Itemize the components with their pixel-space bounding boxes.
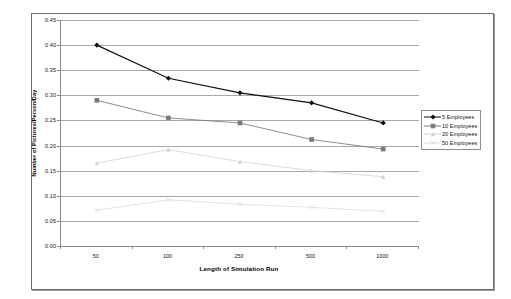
series-50-employees [95,198,386,214]
y-tick-mark [57,70,60,71]
x-tick-label: 250 [235,253,244,259]
x-tick-mark [346,246,347,249]
legend-item-1[interactable]: 5 Employees [424,113,477,122]
data-point [309,100,314,105]
series-10-employees [95,98,386,151]
y-tick-label: 0.45 [45,17,56,23]
legend-marker-icon [424,113,441,122]
y-tick-label: 0.30 [45,92,56,98]
plot-wrapper: 0.000.050.100.150.200.250.300.350.400.45… [60,20,418,246]
y-axis-title-text: Number of Pictures/Person/Day [31,90,37,177]
x-axis-title: Length of Simulation Run [60,265,418,272]
legend-item-label: 20 Employees [441,131,477,137]
y-tick-label: 0.35 [45,67,56,73]
x-tick-mark [203,246,204,249]
y-axis-title: Number of Pictures/Person/Day [28,20,40,246]
series-line [97,200,383,212]
y-tick-label: 0.05 [45,218,56,224]
y-tick-mark [57,20,60,21]
y-tick-label: 0.40 [45,42,56,48]
y-tick-label: 0.20 [45,143,56,149]
y-tick-mark [57,120,60,121]
x-tick-label: 1000 [376,253,388,259]
legend-item-label: 5 Employees [441,114,474,120]
legend-item-3[interactable]: 20 Employees [424,130,477,139]
legend-marker-icon [424,130,441,139]
legend-item-4[interactable]: 50 Employees [424,139,477,148]
chart-page: Number of Pictures/Person/Day 0.000.050.… [0,0,511,299]
data-point [309,137,314,142]
data-point [95,98,100,103]
data-point [381,147,386,152]
x-tick-mark [418,246,419,249]
y-tick-mark [57,221,60,222]
x-tick-mark [60,246,61,249]
y-tick-mark [57,45,60,46]
series-5-employees [94,43,386,126]
chart-legend: 5 Employees10 Employees20 Employees50 Em… [421,110,481,150]
data-point [166,76,171,81]
series-20-employees [95,147,386,179]
series-layer [61,20,419,246]
x-tick-mark [132,246,133,249]
legend-marker-icon [424,139,441,148]
y-tick-label: 0.10 [45,193,56,199]
legend-item-label: 50 Employees [441,140,477,146]
y-tick-mark [57,146,60,147]
data-point [94,43,99,48]
x-tick-label: 50 [93,253,99,259]
y-tick-label: 0.00 [45,243,56,249]
x-tick-mark [275,246,276,249]
data-point [166,116,171,121]
y-tick-label: 0.25 [45,117,56,123]
x-tick-label: 500 [306,253,315,259]
data-point [238,121,243,126]
y-tick-label: 0.15 [45,168,56,174]
legend-item-2[interactable]: 10 Employees [424,122,477,131]
y-tick-mark [57,196,60,197]
y-tick-mark [57,171,60,172]
data-point [381,120,386,125]
data-point [237,90,242,95]
plot-area [60,20,419,247]
x-tick-label: 100 [163,253,172,259]
y-tick-mark [57,95,60,96]
legend-item-label: 10 Employees [441,123,477,129]
legend-marker-icon [424,122,441,131]
